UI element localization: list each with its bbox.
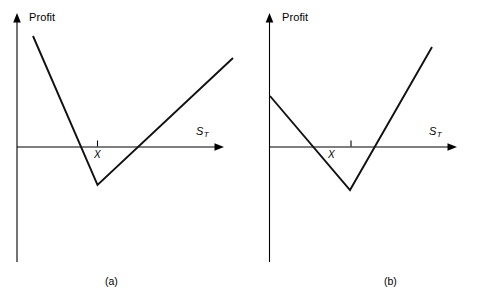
profit-payoff-line (33, 36, 233, 185)
x-axis-label-base: S (196, 125, 203, 137)
x-axis-arrow-icon (215, 143, 225, 151)
x-axis-arrow-icon (448, 143, 458, 151)
chart-panel-a: Profit ST X (a) (0, 0, 239, 302)
x-axis-label-subscript: T (437, 130, 442, 139)
y-axis-arrow-icon (266, 13, 274, 23)
panel-a-plot (0, 0, 239, 302)
strike-price-label: X (94, 150, 101, 160)
panel-b-plot (240, 0, 479, 302)
strike-price-label: X (328, 150, 335, 160)
x-axis-label: ST (196, 126, 208, 137)
y-axis-label: Profit (29, 12, 55, 23)
y-axis-label: Profit (282, 12, 308, 23)
x-axis-label-base: S (429, 125, 436, 137)
profit-payoff-line (270, 47, 432, 190)
x-axis-label-subscript: T (204, 130, 209, 139)
panel-caption-a: (a) (105, 276, 118, 287)
profit-diagram-figure: Profit ST X (a) Profit ST X (b) (0, 0, 479, 302)
panel-caption-b: (b) (384, 276, 397, 287)
chart-panel-b: Profit ST X (b) (240, 0, 479, 302)
x-axis-label: ST (429, 126, 441, 137)
y-axis-arrow-icon (13, 13, 21, 23)
